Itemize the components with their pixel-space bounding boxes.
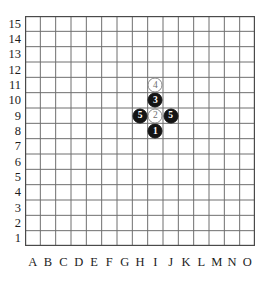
stone-number-label: 2 xyxy=(153,111,158,121)
stone-black-I10[interactable]: 3 xyxy=(148,93,163,108)
stone-black-I8[interactable]: 1 xyxy=(148,124,163,139)
stone-black-J9[interactable]: 5 xyxy=(163,108,178,123)
stone-white-I9[interactable]: 2 xyxy=(148,108,163,123)
stone-number-label: 1 xyxy=(153,126,158,136)
stone-black-H9[interactable]: 5 xyxy=(133,108,148,123)
stone-number-label: 5 xyxy=(168,111,173,121)
stone-number-label: 4 xyxy=(153,80,158,90)
gomoku-board-figure: 151413121110987654321 ABCDEFGHIJKLMNO 12… xyxy=(0,0,271,289)
stone-number-label: 3 xyxy=(153,95,158,105)
stones-layer: 123455 xyxy=(0,0,271,289)
stone-number-label: 5 xyxy=(138,111,143,121)
stone-white-I11[interactable]: 4 xyxy=(148,78,163,93)
